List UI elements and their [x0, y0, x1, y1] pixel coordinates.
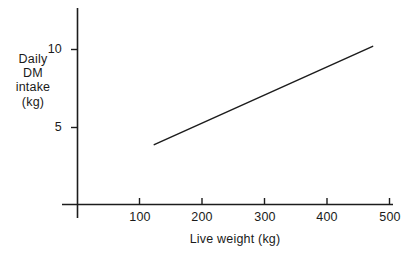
x-tick-label-200: 200 — [191, 210, 212, 224]
x-tick-label-500: 500 — [379, 210, 400, 224]
x-tick-label-100: 100 — [129, 210, 150, 224]
y-axis-label-line-1: Daily — [4, 52, 62, 66]
y-axis-label-line-4: (kg) — [4, 95, 62, 109]
data-series-line — [154, 46, 372, 144]
chart-figure: 10 5 100 200 300 400 500 Daily DM intake… — [0, 0, 407, 259]
y-axis-label-line-2: DM — [4, 66, 62, 80]
x-tick-label-400: 400 — [316, 210, 337, 224]
y-axis-label-line-3: intake — [4, 80, 62, 94]
x-tick-label-300: 300 — [254, 210, 275, 224]
y-axis-label: Daily DM intake (kg) — [4, 52, 62, 109]
y-tick-label-5: 5 — [28, 120, 62, 134]
x-axis-label: Live weight (kg) — [77, 232, 393, 246]
